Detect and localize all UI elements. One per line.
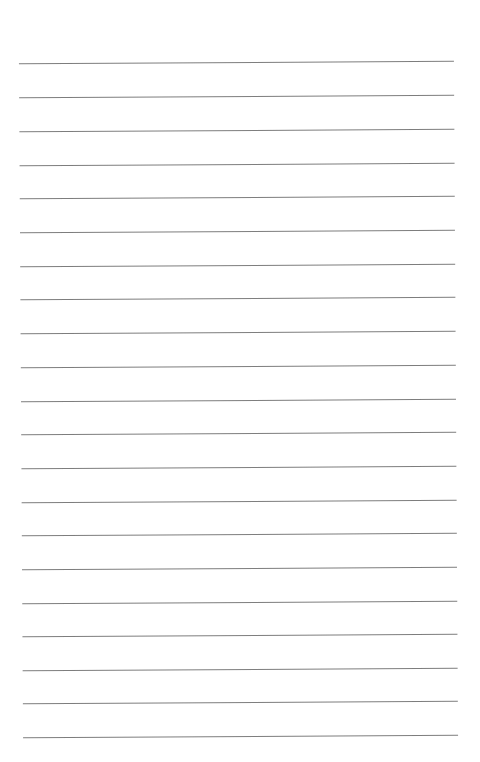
ruled-line [20,264,455,268]
ruled-line [19,95,454,99]
ruled-line [20,230,455,234]
ruled-line [20,297,455,301]
ruled-line [21,466,456,470]
ruled-line [21,365,456,369]
ruled-line [22,567,457,571]
ruled-line [20,163,455,167]
ruled-line [22,500,457,504]
ruled-line [22,601,457,605]
ruled-line [21,432,456,436]
ruled-line [21,331,456,335]
ruled-line [23,701,458,705]
lined-paper-page [0,0,480,762]
ruled-line [22,634,457,638]
ruled-line [21,399,456,403]
ruled-line [23,668,458,672]
ruled-line [19,61,454,65]
ruled-line [19,129,454,133]
ruled-line [22,533,457,537]
ruled-line [20,196,455,200]
ruled-lines [0,0,480,762]
ruled-line [23,735,458,739]
